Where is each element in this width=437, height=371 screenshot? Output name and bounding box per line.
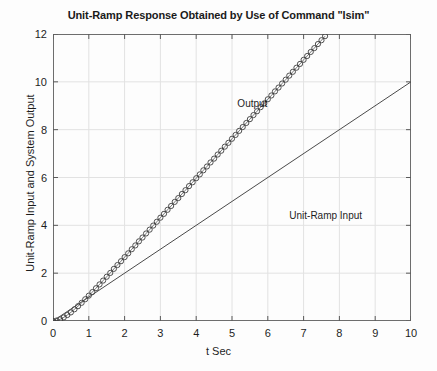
y-tick-label: 8 (20, 124, 47, 136)
x-tick-label: 0 (50, 327, 56, 339)
x-axis-label: t Sec (0, 345, 437, 357)
y-tick-label: 6 (20, 172, 47, 184)
x-tick-label: 6 (265, 327, 271, 339)
plot-svg (53, 34, 411, 321)
y-tick-label: 12 (20, 28, 47, 40)
x-tick-label: 7 (301, 327, 307, 339)
plot-area (53, 34, 411, 321)
x-tick-label: 5 (229, 327, 235, 339)
y-tick-label: 0 (20, 315, 47, 327)
gridlines (53, 34, 411, 321)
x-tick-label: 2 (122, 327, 128, 339)
y-tick-label: 2 (20, 267, 47, 279)
y-tick-label: 10 (20, 76, 47, 88)
plot-annotation: Unit-Ramp Input (289, 210, 362, 221)
figure-canvas: Unit-Ramp Response Obtained by Use of Co… (0, 0, 437, 371)
y-tick-label: 4 (20, 219, 47, 231)
x-tick-label: 10 (405, 327, 417, 339)
x-tick-label: 4 (193, 327, 199, 339)
page-title: Unit-Ramp Response Obtained by Use of Co… (0, 9, 437, 21)
x-tick-label: 3 (157, 327, 163, 339)
x-tick-label: 1 (86, 327, 92, 339)
x-tick-label: 8 (336, 327, 342, 339)
plot-annotation: Output (237, 98, 267, 109)
x-tick-label: 9 (372, 327, 378, 339)
